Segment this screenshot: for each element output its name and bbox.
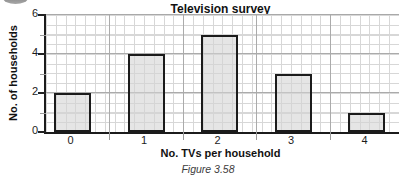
y-axis-tick	[40, 113, 46, 114]
bar-category-0	[54, 93, 91, 132]
plot-area	[44, 14, 399, 134]
bar-category-2	[201, 35, 238, 133]
y-axis-tick	[40, 74, 46, 75]
x-axis-label: No. TVs per household	[44, 147, 397, 159]
y-axis-tick	[38, 92, 46, 94]
x-tick-label: 1	[133, 134, 155, 147]
figure-canvas: Television survey No. of households 0246…	[0, 0, 401, 178]
major-gridline-vertical	[109, 15, 110, 132]
bar-category-4	[348, 113, 385, 133]
figure-caption: Figure 3.58	[108, 163, 308, 175]
x-tick-label: 4	[354, 134, 376, 147]
y-axis-tick	[38, 14, 46, 16]
y-tick-label: 2	[20, 85, 38, 98]
y-axis-tick-labels: 0246	[20, 14, 38, 131]
x-axis-tick-labels: 01234	[44, 134, 397, 147]
y-axis-label: No. of households	[7, 25, 19, 121]
y-tick-label: 6	[20, 7, 38, 20]
y-axis-tick	[40, 35, 46, 36]
bar-category-3	[275, 74, 312, 133]
major-gridline-vertical	[330, 15, 331, 132]
y-tick-label: 0	[20, 124, 38, 137]
bar-category-1	[128, 54, 165, 132]
y-axis-tick	[38, 131, 46, 133]
x-tick-label: 2	[207, 134, 229, 147]
y-tick-label: 4	[20, 46, 38, 59]
y-axis-tick	[38, 53, 46, 55]
x-tick-label: 0	[60, 134, 82, 147]
major-gridline-vertical	[256, 15, 257, 132]
major-gridline-vertical	[183, 15, 184, 132]
x-tick-label: 3	[280, 134, 302, 147]
partial-circle-badge-icon	[3, 0, 28, 4]
